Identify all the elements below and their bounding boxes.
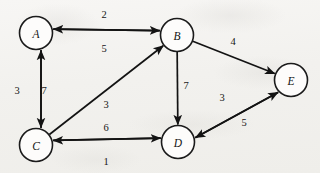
node-e: E <box>275 64 308 97</box>
edge-weight-b-e: 4 <box>230 36 236 47</box>
edge-weight-c-a: 7 <box>41 85 46 96</box>
node-label-d: D <box>173 137 183 149</box>
node-label-c: C <box>32 140 40 152</box>
edge-weight-c-b: 3 <box>103 99 108 110</box>
graph-canvas: 25373746135 ABCDE <box>0 0 320 173</box>
graph-figure: 25373746135 ABCDE <box>0 0 320 173</box>
edge-b-to-d <box>177 52 178 125</box>
edge-d-to-e <box>195 92 278 137</box>
edge-weight-d-c: 1 <box>103 156 108 167</box>
edge-weight-c-d: 6 <box>103 122 108 133</box>
edge-weight-d-e: 5 <box>241 117 246 128</box>
node-b: B <box>161 19 194 52</box>
edge-weight-b-a: 5 <box>101 43 106 54</box>
edge-weight-a-c: 3 <box>14 85 19 96</box>
node-a: A <box>20 17 53 50</box>
edge-b-to-a <box>54 29 161 31</box>
edge-d-to-c <box>53 138 161 140</box>
edge-weight-b-d: 7 <box>183 80 188 91</box>
edge-weight-a-b: 2 <box>101 9 106 20</box>
node-d: D <box>162 126 195 159</box>
node-label-a: A <box>31 28 40 40</box>
edge-weight-e-d: 3 <box>219 92 224 103</box>
node-label-e: E <box>286 75 294 87</box>
node-label-b: B <box>173 30 180 42</box>
node-c: C <box>20 129 53 162</box>
